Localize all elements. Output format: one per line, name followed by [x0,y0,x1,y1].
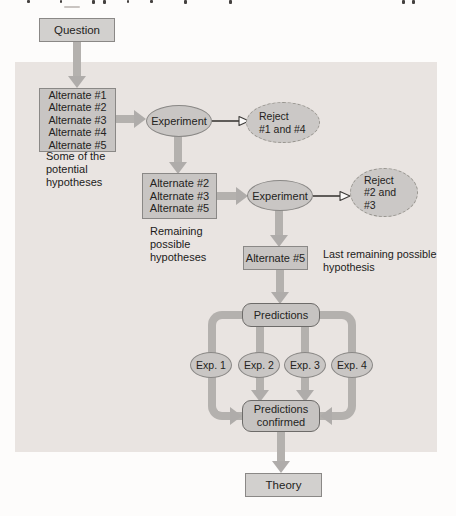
theory-box: Theory [245,473,322,497]
arrow-experiment1-to-reject [212,113,250,129]
experiment1-ellipse: Experiment [146,105,212,137]
initial-hypotheses-box: Alternate #1 Alternate #2 Alternate #3 A… [39,88,116,152]
experiment2-ellipse: Experiment [247,180,313,211]
reject2-ellipse: Reject #2 and #3 [350,168,418,217]
exp3-ellipse: Exp. 3 [284,352,326,378]
arrowhead-exp4-to-confirmed [320,407,332,425]
exp4-ellipse: Exp. 4 [331,352,373,378]
alternate5-box: Alternate #5 [243,246,308,270]
remaining-hypotheses-box: Alternate #2 Alternate #3 Alternate #5 [142,173,217,219]
arrowhead-exp1-to-confirmed [230,407,242,425]
flowchart-scientific-method: Question Alternate #1 Alternate #2 Alter… [0,0,456,516]
reject1-ellipse: Reject #1 and #4 [246,102,320,143]
remaining-hypotheses-caption: Remaining possible hypotheses [150,225,206,264]
question-box: Question [39,18,115,42]
initial-hypotheses-caption: Some of the potential hypotheses [46,150,105,189]
alternate5-caption: Last remaining possible hypothesis [323,248,441,274]
exp1-ellipse: Exp. 1 [190,352,232,378]
arrow-experiment2-to-reject [313,188,351,204]
predictions-box: Predictions [242,303,320,327]
predictions-confirmed-box: Predictions confirmed [242,400,320,432]
exp2-ellipse: Exp. 2 [238,352,280,378]
